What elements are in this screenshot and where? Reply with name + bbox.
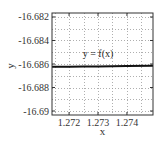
chart: 1.2721.2731.274 -16.682-16.684-16.686-16… [0,0,163,144]
x-tick-label: 1.273 [87,117,110,128]
y-tick-label: -16.686 [18,59,49,70]
x-tick-label: 1.272 [58,117,81,128]
data-series-curve [52,66,153,67]
y-tick-labels: -16.682-16.684-16.686-16.688-16.69 [18,11,49,116]
grid-lines [52,13,153,115]
y-axis-label: y [4,63,16,69]
curve-annotation: y = f(x) [83,48,114,60]
y-tick-label: -16.684 [18,35,49,46]
x-tick-label: 1.274 [116,117,139,128]
x-axis-label: x [100,125,106,137]
y-tick-label: -16.69 [23,106,49,117]
y-tick-label: -16.682 [18,11,49,22]
y-tick-label: -16.688 [18,82,49,93]
curve-line [52,66,153,67]
x-tick-labels: 1.2721.2731.274 [58,117,138,128]
